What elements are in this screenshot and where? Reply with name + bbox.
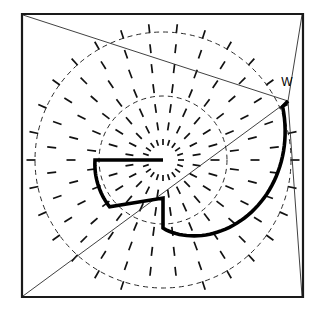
field-tick (202, 281, 205, 290)
field-tick (193, 154, 201, 155)
field-tick (288, 187, 297, 189)
field-tick (155, 207, 156, 216)
construction-lines-group (23, 15, 302, 296)
field-tick (183, 203, 187, 211)
field-tick (146, 169, 151, 173)
field-tick (129, 70, 132, 78)
field-tick (184, 133, 190, 139)
field-tick (177, 154, 183, 156)
field-tick (129, 143, 136, 147)
field-tick (109, 144, 118, 147)
field-tick (157, 140, 159, 146)
edge-w-to-bottomright (288, 101, 302, 296)
field-tick (143, 165, 149, 167)
field-tick (190, 143, 197, 147)
field-tick (126, 117, 132, 124)
field-tick (189, 89, 192, 97)
field-tick (91, 96, 98, 102)
field-tick (213, 81, 218, 88)
field-tick (116, 214, 121, 221)
field-tick (69, 137, 78, 139)
diagonal-topleft-to-w (23, 15, 288, 101)
field-tick (134, 222, 137, 230)
field-tick (125, 154, 133, 155)
field-tick (248, 255, 254, 262)
field-tick (239, 78, 245, 84)
field-tick (95, 42, 100, 50)
field-tick (227, 270, 232, 278)
field-tick (168, 174, 170, 180)
field-tick (172, 143, 176, 148)
field-tick (266, 235, 273, 240)
field-tick (175, 267, 176, 276)
field-tick (146, 148, 151, 152)
field-tick (95, 270, 100, 278)
field-tick (177, 126, 181, 133)
field-tick (183, 109, 187, 117)
field-tick (78, 201, 86, 205)
field-tick (168, 140, 170, 146)
field-tick (240, 201, 248, 205)
field-tick (151, 143, 155, 148)
field-tick (199, 261, 202, 269)
field-tick (209, 173, 218, 176)
field-tick (174, 64, 175, 73)
field-tick (190, 174, 197, 178)
field-tick (129, 242, 132, 250)
field-tick (64, 98, 72, 103)
field-tick (38, 212, 46, 216)
field-tick (177, 165, 183, 167)
field-tick (136, 181, 142, 187)
field-tick (29, 132, 38, 134)
field-tick (202, 30, 205, 39)
field-tick (203, 129, 211, 134)
field-tick (157, 174, 159, 180)
field-tick (53, 80, 60, 85)
field-tick (225, 131, 233, 134)
field-tick (153, 84, 154, 93)
field-tick (270, 147, 279, 148)
field-tick (266, 80, 273, 85)
field-tick (189, 222, 192, 230)
field-tick (153, 227, 154, 236)
field-tick (217, 201, 224, 206)
field-tick (168, 122, 169, 130)
field-tick (91, 218, 98, 224)
field-tick (157, 122, 158, 130)
field-tick (194, 117, 200, 124)
field-tick (239, 236, 245, 242)
field-tick (170, 104, 171, 113)
field-tick (230, 150, 239, 151)
field-tick (204, 99, 209, 106)
field-tick (108, 81, 113, 88)
field-tick (176, 24, 177, 33)
field-tick (38, 104, 46, 108)
field-tick (116, 99, 121, 106)
field-tick (254, 217, 262, 222)
field-tick (121, 30, 124, 39)
field-tick (121, 281, 124, 290)
field-tick (151, 247, 152, 256)
field-tick (81, 236, 87, 242)
field-tick (125, 50, 128, 58)
field-tick (199, 50, 202, 58)
field-tick (204, 214, 209, 221)
field-tick (217, 113, 224, 118)
field-tick (177, 187, 181, 194)
field-tick (29, 187, 38, 189)
field-tick (102, 113, 109, 118)
field-tick (72, 59, 78, 66)
field-tick (115, 186, 123, 191)
field-tick (264, 122, 272, 125)
field-tick (101, 251, 106, 259)
field-tick (248, 137, 257, 139)
field-tick (53, 196, 61, 199)
field-tick (129, 174, 136, 178)
field-tick (47, 147, 56, 148)
field-tick (143, 154, 149, 156)
field-tick (254, 98, 262, 103)
field-tick (69, 181, 78, 183)
field-tick (220, 251, 225, 259)
thick-spiral-curve (95, 101, 288, 236)
field-tick (174, 247, 175, 256)
